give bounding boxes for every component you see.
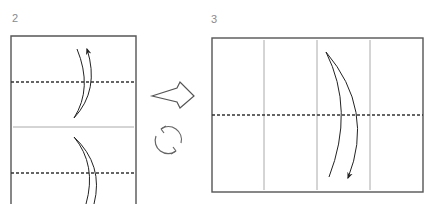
step-2-fold-arrow-down [74, 137, 97, 204]
step-3-diagram [212, 38, 423, 192]
step-2-fold-arrow-up [74, 49, 91, 118]
rotate-icon [155, 126, 181, 154]
step-2-paper-outline [11, 36, 136, 204]
diagram-canvas [0, 0, 433, 204]
hollow-right-arrow-icon [152, 82, 194, 108]
step-2-diagram [11, 36, 136, 204]
